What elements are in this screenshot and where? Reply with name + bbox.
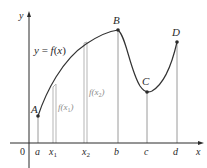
diagram-svg: A B C D y x 0 a x1 x2 b c d y = f(x) f(x… <box>0 0 207 168</box>
label-x-axis: x <box>195 146 201 157</box>
label-point-d: D <box>171 26 180 38</box>
label-y-axis: y <box>18 10 24 21</box>
label-f-x1: f(x1) <box>58 102 74 113</box>
increasing-decreasing-function-diagram: A B C D y x 0 a x1 x2 b c d y = f(x) f(x… <box>0 0 207 168</box>
bar-f-x2 <box>84 42 87 143</box>
tick-label-a: a <box>35 146 40 157</box>
bar-f-x1 <box>53 84 56 143</box>
label-origin: 0 <box>20 146 25 157</box>
point-c <box>145 90 149 94</box>
tick-label-c: c <box>144 146 149 157</box>
x-axis-arrow-icon <box>198 141 204 145</box>
tick-label-d: d <box>173 146 179 157</box>
label-point-c: C <box>142 75 150 87</box>
point-d <box>175 40 179 44</box>
label-point-b: B <box>113 14 120 26</box>
y-axis-arrow-icon <box>27 11 31 17</box>
curve-label: y = f(x) <box>33 44 66 57</box>
tick-label-x2: x2 <box>81 146 90 159</box>
point-b <box>116 28 120 32</box>
label-point-a: A <box>30 103 38 115</box>
tick-label-b: b <box>114 146 119 157</box>
tick-label-x1: x1 <box>48 146 57 159</box>
label-f-x2: f(x2) <box>89 87 105 98</box>
